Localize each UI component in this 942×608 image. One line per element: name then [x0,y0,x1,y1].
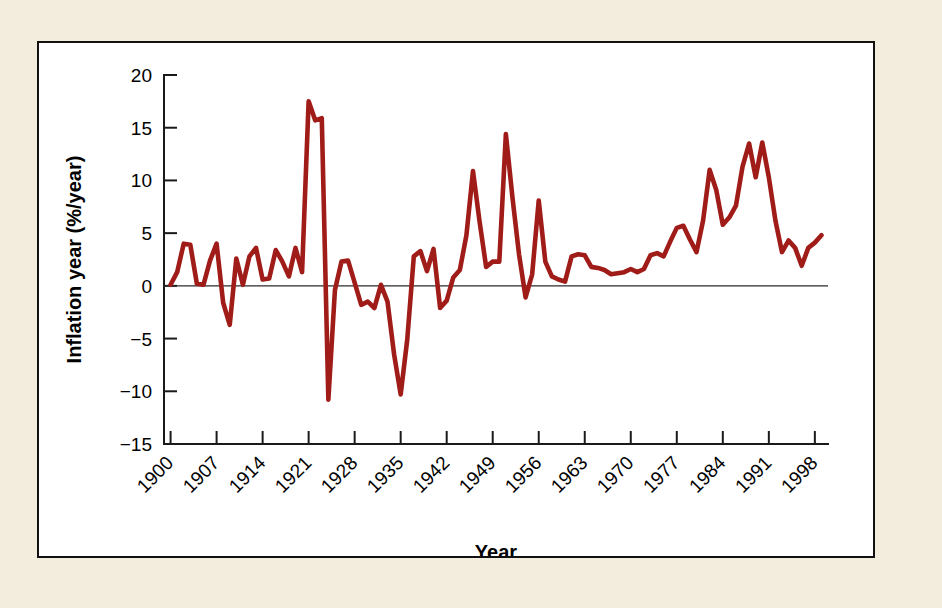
x-tick-label: 1991 [731,452,776,497]
y-tick-label: −5 [130,329,152,350]
y-tick-label: 10 [131,170,152,191]
x-tick-label: 1984 [685,452,730,497]
y-tick-label: 0 [141,276,152,297]
x-tick-label: 1921 [271,452,316,497]
inflation-line-chart: 20151050−5−10−15190019071914192119281935… [39,43,873,556]
y-tick-label: −10 [120,381,152,402]
plot-area: 20151050−5−10−15190019071914192119281935… [63,65,828,556]
y-axis-title: Inflation year (%/year) [63,156,85,364]
x-tick-label: 1935 [363,452,408,497]
x-tick-label: 1970 [593,452,638,497]
x-tick-label: 1949 [455,452,500,497]
x-tick-label: 1998 [777,452,822,497]
x-tick-label: 1900 [133,452,178,497]
figure-panel: 20151050−5−10−15190019071914192119281935… [37,41,875,558]
x-tick-label: 1914 [225,452,270,497]
x-tick-label: 1963 [547,452,592,497]
y-tick-label: 5 [141,223,152,244]
x-tick-label: 1956 [501,452,546,497]
x-tick-label: 1928 [317,452,362,497]
x-tick-label: 1977 [639,452,684,497]
x-tick-label: 1907 [179,452,224,497]
x-axis-title: Year [475,541,517,556]
y-tick-label: −15 [120,434,152,455]
y-tick-label: 20 [131,65,152,86]
y-tick-label: 15 [131,118,152,139]
x-tick-label: 1942 [409,452,454,497]
inflation-series-line [171,101,822,399]
